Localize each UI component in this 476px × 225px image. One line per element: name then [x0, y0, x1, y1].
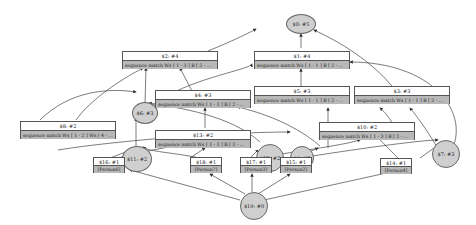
edge-n19-r16: [130, 170, 240, 200]
record-title: $2: #4: [123, 52, 217, 61]
node-record[interactable]: $10: #2 sequence match Ws [ 1 - 3 ] B [ …: [319, 122, 415, 140]
node-record[interactable]: $2: #4 sequence match Ws [ 1 - 3 ] B [ 2…: [122, 51, 218, 69]
record-body: sequence match Ws [ 1 - 3 ] B [ 2 - ...: [320, 132, 414, 140]
record-body: sequence match Ws [ 1 - 3 ] B [ 3 - ...: [156, 140, 250, 148]
node-label: $0: #5: [292, 21, 309, 27]
node-record[interactable]: $1: #4 sequence match Ws [ 1 - 1 ] B [ 2…: [254, 51, 350, 69]
record-body: sequence match Ws [ 1 - 3 ] B [ 2 - ...: [123, 61, 217, 69]
record-body: [Person6]: [94, 166, 124, 173]
record-title: $8: #2: [21, 122, 115, 131]
record-title: $5: #3: [255, 87, 349, 96]
node-record[interactable]: $13: #2 sequence match Ws [ 1 - 3 ] B [ …: [155, 130, 251, 148]
record-title: $13: #2: [156, 131, 250, 140]
edge-n19-r15: [258, 174, 290, 194]
node-record[interactable]: $4: #3 sequence match Ws [ 1 - 3 ] B [ 2…: [155, 90, 251, 108]
record-title: $10: #2: [320, 123, 414, 132]
record-title: $17: #1: [241, 158, 271, 166]
record-title: $16: #1: [94, 158, 124, 166]
edge-r2-n5: [208, 29, 256, 51]
node-circle[interactable]: $19: #0: [240, 192, 268, 220]
edge-n19-r14: [264, 170, 400, 200]
record-title: $3: #3: [355, 87, 449, 96]
edge-n6-r2: [145, 68, 146, 104]
edge-r15-n7: [300, 140, 438, 158]
node-label: $19: #0: [244, 203, 264, 209]
record-body: [Person3]: [241, 166, 271, 173]
record-body: sequence match Ws [ 1 - 1 ] B [ 2 - ...: [255, 61, 349, 69]
node-circle[interactable]: $11: #2: [122, 146, 152, 172]
node-label: $7: #3: [437, 151, 454, 157]
node-record[interactable]: $18: #1 [Person7]: [190, 157, 222, 173]
node-record[interactable]: $3: #3 sequence match Ws [ 1 - 1 ] B [ 2…: [354, 86, 450, 104]
record-title: $1: #4: [255, 52, 349, 61]
record-body: [Person4]: [381, 167, 411, 174]
edge-r8-n6: [40, 90, 136, 120]
record-body: sequence match Ws [ 1 - 1 ] B [ 2 - ...: [255, 96, 349, 104]
record-title: $14: #1: [381, 159, 411, 167]
edges-layer: [0, 0, 476, 225]
edge-n19-r18: [210, 174, 245, 194]
edge-r4-r2: [180, 68, 192, 91]
node-record[interactable]: $8: #2 sequence match Ws [ 1 - 2 ] Ws [ …: [20, 121, 116, 139]
node-circle[interactable]: $7: #3: [432, 140, 460, 168]
record-body: sequence match Ws [ 1 - 2 ] Ws [ 4 - ...: [21, 131, 115, 139]
record-body: sequence match Ws [ 1 - 1 ] B [ 2 - ...: [355, 96, 449, 104]
node-record[interactable]: $14: #1 [Person4]: [380, 158, 412, 174]
record-body: [Person7]: [191, 166, 221, 173]
record-body: [Person2]: [281, 166, 311, 173]
node-record[interactable]: $16: #1 [Person6]: [93, 157, 125, 173]
node-record[interactable]: $15: #1 [Person2]: [280, 157, 312, 173]
node-circle[interactable]: $0: #5: [286, 14, 316, 34]
record-title: $15: #1: [281, 158, 311, 166]
node-label: $6: #3: [136, 110, 153, 116]
node-label: $11: #2: [127, 156, 147, 162]
node-record[interactable]: $17: #1 [Person3]: [240, 157, 272, 173]
record-title: $4: #3: [156, 91, 250, 100]
record-body: sequence match Ws [ 1 - 3 ] B [ 2 - ...: [156, 100, 250, 108]
graph-canvas: $0: #5 $6: #3 $11: #2 $12: #2 $9: #2 $7:…: [0, 0, 476, 225]
node-record[interactable]: $5: #3 sequence match Ws [ 1 - 1 ] B [ 2…: [254, 86, 350, 104]
record-title: $18: #1: [191, 158, 221, 166]
